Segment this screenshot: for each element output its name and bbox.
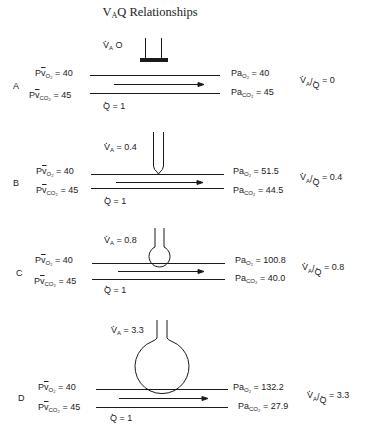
va-label-c: VA = 0.8: [104, 235, 137, 246]
panel-label-a: A: [13, 81, 19, 91]
panel-label-b: B: [13, 178, 19, 188]
pa-o2-label-c: PaO₂ = 100.8: [235, 255, 286, 266]
pv-o2-label-d: PvO₂ = 40: [38, 382, 76, 393]
pa-co2-label-a: PaCO₂ = 45: [231, 87, 274, 98]
va-label-b: VA = 0.4: [104, 142, 137, 153]
pv-co2-label-d: PvCO₂ = 45: [38, 402, 80, 413]
pv-co2-label-b: PvCO₂ = 45: [36, 185, 78, 196]
pa-o2-label-d: PaO₂ = 132.2: [233, 382, 284, 393]
pv-o2-label-a: PvO₂ = 40: [35, 68, 73, 79]
panel-label-c: C: [16, 268, 23, 278]
va-label-d: VA = 3.3: [111, 325, 144, 336]
q-label-c: Q = 1: [104, 285, 126, 295]
pv-co2-label-a: PvCO₂ = 45: [29, 90, 71, 101]
va-q-ratio-b: VA/Q = 0.4: [300, 172, 342, 184]
q-label-b: Q = 1: [104, 196, 126, 206]
q-label-d: Q = 1: [110, 413, 132, 423]
blocked-airway-bar: [140, 58, 168, 62]
va-label-a: VA O: [103, 40, 123, 51]
panel-label-d: D: [18, 393, 25, 403]
panel-b-graphics: [91, 132, 224, 189]
pa-o2-label-b: PaO₂ = 51.5: [233, 166, 279, 177]
pa-co2-label-c: PaCO₂ = 40.0: [235, 273, 285, 284]
q-label-a: Q = 1: [103, 101, 125, 111]
pa-co2-label-d: PaCO₂ = 27.9: [238, 401, 288, 412]
pv-o2-label-b: PvO₂ = 40: [36, 166, 74, 177]
pv-o2-label-c: PvO₂ = 40: [35, 255, 73, 266]
flow-arrow-head: [198, 83, 204, 87]
pa-co2-label-b: PaCO₂ = 44.5: [233, 185, 283, 196]
vq-diagram-graphics: [0, 0, 366, 429]
pv-co2-label-c: PvCO₂ = 45: [34, 276, 76, 287]
va-q-ratio-c: VA/Q = 0.8: [302, 262, 344, 274]
va-q-ratio-d: VA/Q = 3.3: [307, 390, 349, 402]
pa-o2-label-a: PaO₂ = 40: [231, 68, 269, 79]
va-q-ratio-a: VA/Q = 0: [300, 75, 335, 87]
